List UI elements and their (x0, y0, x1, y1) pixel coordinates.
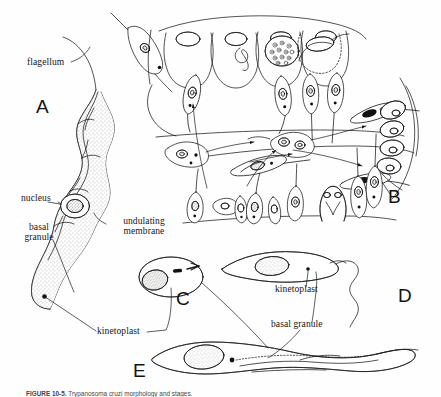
panel-letter-a: A (36, 96, 49, 118)
figure-caption: FIGURE 10-5. Trypanosoma cruzi morpholog… (26, 390, 192, 397)
panel-a-organism (31, 37, 114, 309)
label-undulating-membrane-line2: membrane (124, 226, 165, 236)
figure-artwork (0, 0, 441, 397)
label-undulating-membrane: undulating membrane (108, 216, 180, 237)
label-flagellum: flagellum (27, 58, 64, 68)
label-basal-granule-a-line1: basal (29, 222, 49, 232)
panel-letter-c: C (176, 288, 190, 310)
label-basal-granule-right: basal granule (271, 320, 323, 330)
figure-root: flagellum nucleus basal granule undulati… (0, 0, 441, 397)
panel-e-organism (152, 342, 418, 374)
b-trypomastigotes-upper (176, 72, 345, 143)
figure-caption-prefix: FIGURE 10-5. (26, 390, 67, 397)
figure-caption-rest: Trypanosoma cruzi morphology and stages. (68, 390, 192, 397)
panel-letter-d: D (398, 285, 412, 307)
panel-letter-e: E (133, 360, 146, 382)
panel-b-tissue (148, 16, 420, 225)
label-nucleus: nucleus (21, 194, 51, 204)
free-trypanosome-top (111, 13, 172, 92)
label-basal-granule-a-line2: granule (24, 232, 53, 242)
label-undulating-membrane-line1: undulating (123, 216, 165, 226)
label-kinetoplast-right: kinetoplast (275, 285, 318, 295)
panel-letter-b: B (388, 186, 401, 208)
label-basal-granule-a: basal granule (11, 222, 67, 243)
label-kinetoplast-left: kinetoplast (97, 327, 140, 337)
